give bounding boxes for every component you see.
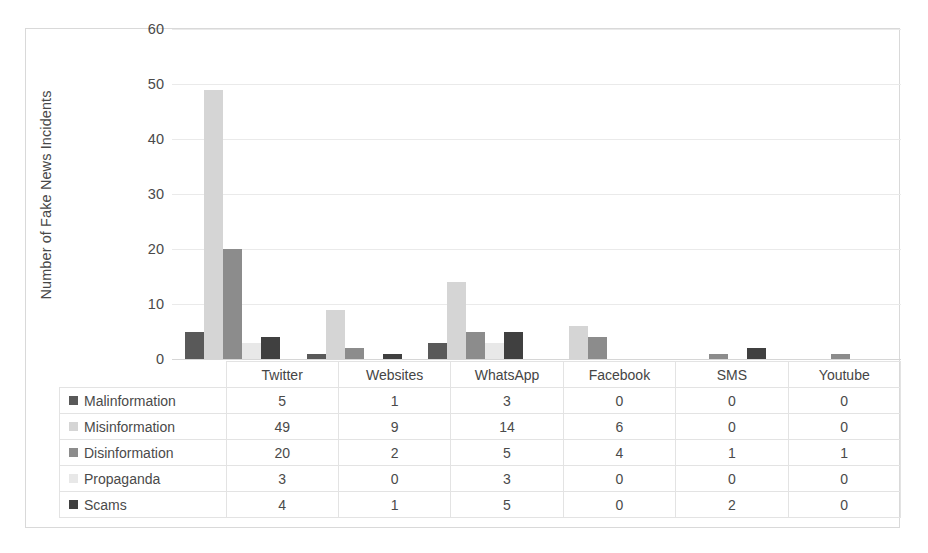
- bar-group: [415, 29, 537, 359]
- table-cell: 6: [563, 414, 675, 440]
- table-cell: 3: [226, 466, 338, 492]
- table-cell: 0: [788, 466, 900, 492]
- y-tick-label: 40: [116, 131, 164, 147]
- table-column-header: Twitter: [226, 362, 338, 388]
- table-cell: 0: [563, 492, 675, 518]
- table-cell: 0: [788, 388, 900, 414]
- table-cell: 1: [338, 492, 450, 518]
- bar: [242, 343, 261, 360]
- y-axis-tick-labels: 6050403020100: [116, 29, 164, 361]
- legend-entry: Misinformation: [60, 414, 227, 440]
- table-header-row: TwitterWebsitesWhatsAppFacebookSMSYoutub…: [60, 362, 901, 388]
- table-row: Propaganda303000: [60, 466, 901, 492]
- bar: [185, 332, 204, 360]
- legend-entry: Malinformation: [60, 388, 227, 414]
- legend-entry: Scams: [60, 492, 227, 518]
- bar-groups: [172, 29, 901, 359]
- bar: [569, 326, 588, 359]
- y-tick-label: 10: [116, 296, 164, 312]
- table-cell: 4: [563, 440, 675, 466]
- bar: [831, 354, 850, 360]
- table-cell: 3: [451, 466, 563, 492]
- table-column-header: Facebook: [563, 362, 675, 388]
- data-table: TwitterWebsitesWhatsAppFacebookSMSYoutub…: [59, 361, 901, 518]
- plot-region: Number of Fake News Incidents 6050403020…: [26, 29, 901, 361]
- table-cell: 14: [451, 414, 563, 440]
- legend-swatch-icon: [69, 448, 78, 457]
- bar-group: [658, 29, 780, 359]
- table-row: Misinformation49914600: [60, 414, 901, 440]
- legend-label: Scams: [84, 497, 127, 513]
- chart-frame: Number of Fake News Incidents 6050403020…: [25, 28, 900, 528]
- bar-group: [172, 29, 294, 359]
- table-cell: 3: [451, 388, 563, 414]
- table-cell: 1: [676, 440, 788, 466]
- y-tick-label: 50: [116, 76, 164, 92]
- legend-swatch-icon: [69, 422, 78, 431]
- legend-swatch-icon: [69, 396, 78, 405]
- bar: [485, 343, 504, 360]
- table-row: Malinformation513000: [60, 388, 901, 414]
- table-cell: 1: [338, 388, 450, 414]
- bar: [588, 337, 607, 359]
- table-cell: 0: [676, 466, 788, 492]
- axis-baseline: [172, 359, 901, 360]
- table-cell: 0: [676, 414, 788, 440]
- bar-group: [537, 29, 659, 359]
- table-cell: 2: [676, 492, 788, 518]
- table-cell: 49: [226, 414, 338, 440]
- bar: [747, 348, 766, 359]
- legend-label: Propaganda: [84, 471, 160, 487]
- bar: [709, 354, 728, 360]
- y-tick-label: 60: [116, 21, 164, 37]
- table-cell: 2: [338, 440, 450, 466]
- y-tick-label: 30: [116, 186, 164, 202]
- table-cell: 0: [563, 388, 675, 414]
- y-axis-title: Number of Fake News Incidents: [24, 29, 68, 361]
- table-cell: 1: [788, 440, 900, 466]
- table-column-header: WhatsApp: [451, 362, 563, 388]
- legend-label: Disinformation: [84, 445, 173, 461]
- data-table-body: TwitterWebsitesWhatsAppFacebookSMSYoutub…: [60, 362, 901, 518]
- bar: [204, 90, 223, 360]
- bar: [504, 332, 523, 360]
- table-column-header: SMS: [676, 362, 788, 388]
- table-cell: 0: [788, 414, 900, 440]
- bar-group: [780, 29, 902, 359]
- table-row: Disinformation2025411: [60, 440, 901, 466]
- bar: [307, 354, 326, 360]
- legend-label: Malinformation: [84, 393, 176, 409]
- table-cell: 5: [451, 440, 563, 466]
- y-tick-label: 20: [116, 241, 164, 257]
- bar: [345, 348, 364, 359]
- legend-swatch-icon: [69, 500, 78, 509]
- table-cell: 5: [451, 492, 563, 518]
- table-cell: 4: [226, 492, 338, 518]
- bar: [428, 343, 447, 360]
- table-cell: 5: [226, 388, 338, 414]
- table-cell: 0: [788, 492, 900, 518]
- bar: [383, 354, 402, 360]
- bar: [447, 282, 466, 359]
- table-cell: 0: [563, 466, 675, 492]
- table-column-header: Youtube: [788, 362, 900, 388]
- bar: [466, 332, 485, 360]
- table-row: Scams415020: [60, 492, 901, 518]
- table-column-header: Websites: [338, 362, 450, 388]
- table-cell: 0: [676, 388, 788, 414]
- table-cell: 20: [226, 440, 338, 466]
- legend-label: Misinformation: [84, 419, 175, 435]
- bar: [261, 337, 280, 359]
- table-corner-cell: [60, 362, 227, 388]
- table-cell: 9: [338, 414, 450, 440]
- bar-group: [294, 29, 416, 359]
- legend-entry: Propaganda: [60, 466, 227, 492]
- bar: [223, 249, 242, 359]
- legend-entry: Disinformation: [60, 440, 227, 466]
- table-cell: 0: [338, 466, 450, 492]
- legend-swatch-icon: [69, 474, 78, 483]
- bar: [326, 310, 345, 360]
